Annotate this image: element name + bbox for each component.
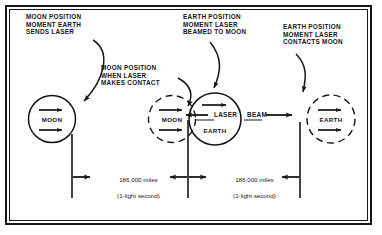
callout-moon-position-sends-laser: MOON POSITION MOMENT EARTH SENDS LASER <box>26 13 81 36</box>
body-earth-start <box>189 93 241 145</box>
measurement-left-time: (1-light second) <box>117 192 160 199</box>
callout-moon-position-makes-contact: MOON POSITION WHEN LASER MAKES CONTACT <box>101 64 160 87</box>
label-moon-later: MOON <box>152 116 192 123</box>
diagram-figure: MOON POSITION MOMENT EARTH SENDS LASER M… <box>0 0 382 235</box>
callout-earth-position-contacts-moon: EARTH POSITION MOMENT LASER CONTACTS MOO… <box>283 23 343 46</box>
measurement-right-time: (1-light second) <box>233 192 276 199</box>
label-moon-start: MOON <box>32 116 72 123</box>
laser-beam-word-laser: LASER <box>214 111 237 118</box>
laser-beam-word-beam: BEAM <box>247 111 267 118</box>
pointer-earth-start <box>210 42 220 88</box>
label-earth-start: EARTH <box>194 127 236 134</box>
measurement-label-right: 186,000 miles (1-light second) <box>196 168 306 208</box>
measurement-left-distance: 186,000 miles <box>119 176 158 183</box>
measurement-label-left: 186,000 miles (1-light second) <box>80 168 190 208</box>
laser-beam-group <box>186 115 292 120</box>
callout-earth-position-beamed-to-moon: EARTH POSITION MOMENT LASER BEAMED TO MO… <box>183 13 246 36</box>
label-earth-later: EARTH <box>310 116 352 123</box>
pointer-moon-later <box>178 78 191 106</box>
measurement-right-distance: 186,000 miles <box>235 176 274 183</box>
pointer-earth-later <box>296 54 305 92</box>
